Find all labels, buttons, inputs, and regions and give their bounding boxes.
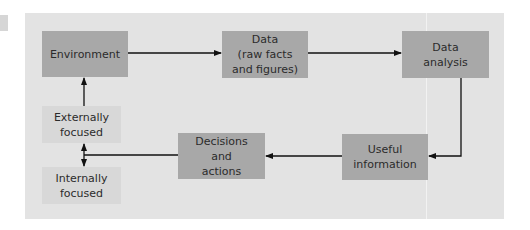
arrow-analysis-to-information [429,78,461,156]
arrows-layer [0,0,530,230]
